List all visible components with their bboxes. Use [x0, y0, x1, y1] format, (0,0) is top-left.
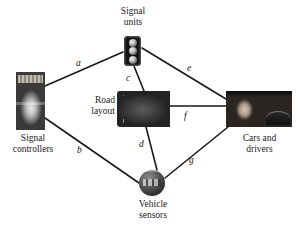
- edge-label-f: f: [184, 111, 187, 121]
- node-label-vehicle-sensors-line2: sensors: [116, 210, 190, 221]
- road-layout-photo: [117, 91, 170, 127]
- node-label-signal-controllers-line1: Signal: [0, 133, 66, 144]
- node-label-signal-controllers: Signal controllers: [0, 133, 66, 155]
- node-label-cars-and-drivers: Cars and drivers: [222, 133, 297, 155]
- traffic-light-lamp-bottom: [129, 56, 137, 64]
- edge-a-line: [45, 52, 123, 86]
- edge-label-e: e: [187, 63, 191, 73]
- diagram-canvas: Signal units Signal controllers Road lay…: [0, 0, 298, 231]
- node-label-signal-units-line1: Signal: [96, 6, 170, 17]
- edge-d-line: [146, 127, 157, 170]
- node-label-signal-units-line2: units: [96, 17, 170, 28]
- signal-controller-photo: [16, 72, 45, 130]
- node-label-signal-controllers-line2: controllers: [0, 144, 66, 155]
- node-label-road-layout-line1: Road: [70, 95, 115, 106]
- node-label-road-layout: Road layout: [70, 95, 115, 117]
- traffic-light-icon: [124, 36, 141, 66]
- traffic-light-lamp-top: [129, 39, 137, 47]
- edge-label-g: g: [189, 155, 194, 165]
- node-label-signal-units: Signal units: [96, 6, 170, 28]
- cars-and-drivers-photo: [226, 91, 292, 127]
- traffic-light-lamp-middle: [129, 47, 137, 55]
- edge-label-c: c: [126, 73, 130, 83]
- node-label-cars-and-drivers-line2: drivers: [222, 144, 297, 155]
- node-label-vehicle-sensors: Vehicle sensors: [116, 199, 190, 221]
- node-label-cars-and-drivers-line1: Cars and: [222, 133, 297, 144]
- edge-label-b: b: [77, 145, 82, 155]
- edge-label-a: a: [76, 58, 81, 68]
- edge-g-line: [165, 127, 228, 178]
- edge-c-line: [134, 66, 144, 91]
- node-label-road-layout-line2: layout: [70, 106, 115, 117]
- node-label-vehicle-sensors-line1: Vehicle: [116, 199, 190, 210]
- edge-label-d: d: [139, 139, 144, 149]
- vehicle-sensor-sphere-icon: [139, 170, 165, 196]
